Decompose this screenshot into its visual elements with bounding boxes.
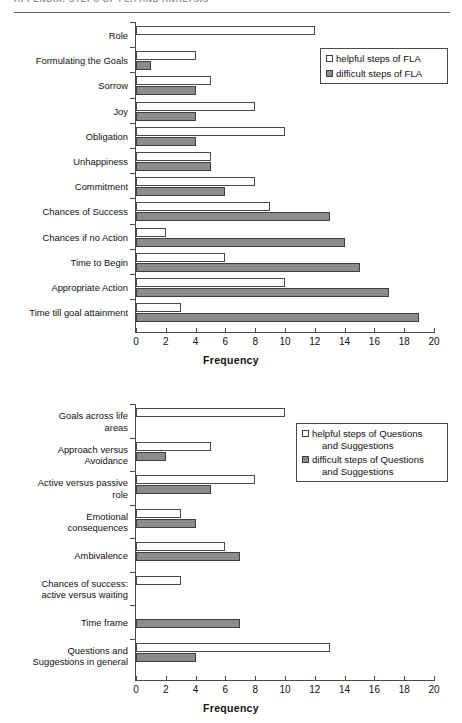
bar-difficult <box>136 653 196 662</box>
value-axis-tick-label: 6 <box>210 684 240 695</box>
bar-difficult <box>136 187 225 196</box>
value-axis-tick-label: 20 <box>419 684 449 695</box>
legend-swatch-helpful-icon <box>326 55 333 62</box>
value-axis-tick-label: 0 <box>121 684 151 695</box>
category-label-line: Ambivalence <box>74 550 128 561</box>
bar-helpful <box>136 253 225 262</box>
value-axis-tick-label: 8 <box>240 684 270 695</box>
category-label-line: Formulating the Goals <box>36 55 128 66</box>
category-label: Chances if no Action <box>0 232 128 243</box>
category-label: Sorrow <box>0 80 128 91</box>
category-label: Questions andSuggestions in general <box>0 645 128 668</box>
category-label-line: Role <box>109 30 128 41</box>
bar-helpful <box>136 102 255 111</box>
value-axis-tick-label: 4 <box>181 336 211 347</box>
value-axis-tick-label: 2 <box>151 684 181 695</box>
bar-helpful <box>136 51 196 60</box>
category-tick <box>130 224 135 225</box>
chart-questions-legend: helpful steps of Questionsand Suggestion… <box>296 423 448 482</box>
value-axis-tick-label: 16 <box>359 684 389 695</box>
bar-helpful <box>136 509 181 518</box>
bar-difficult <box>136 452 166 461</box>
category-tick <box>130 605 135 606</box>
legend-label-line: and Suggestions <box>322 440 422 452</box>
value-axis-tick-label: 16 <box>359 336 389 347</box>
category-tick <box>130 639 135 640</box>
category-label: Emotionalconsequences <box>0 511 128 534</box>
category-tick <box>130 22 135 23</box>
category-tick <box>130 123 135 124</box>
legend-swatch-difficult-icon <box>302 456 309 463</box>
category-tick <box>130 438 135 439</box>
value-axis-tick <box>434 328 435 332</box>
category-label: Chances of Success <box>0 206 128 217</box>
category-label-line: Chances of Success <box>43 206 128 217</box>
category-tick <box>130 249 135 250</box>
legend-swatch-difficult-icon <box>326 70 333 77</box>
legend-item-helpful: helpful steps of Questionsand Suggestion… <box>302 428 441 451</box>
value-axis-tick <box>374 328 375 332</box>
category-label-line: consequences <box>0 522 128 533</box>
category-label-line: Goals across life <box>59 410 128 421</box>
bar-helpful <box>136 542 225 551</box>
category-label-line: Sorrow <box>98 80 128 91</box>
value-axis-tick <box>255 676 256 680</box>
category-label-line: Unhappiness <box>73 156 128 167</box>
legend-label-line: and Suggestions <box>322 466 424 478</box>
category-tick <box>130 572 135 573</box>
category-label: Appropriate Action <box>0 282 128 293</box>
legend-item-difficult: difficult steps of Questionsand Suggesti… <box>302 454 441 477</box>
value-axis-tick-label: 4 <box>181 684 211 695</box>
value-axis-tick-label: 12 <box>300 336 330 347</box>
category-tick <box>130 404 135 405</box>
category-label-line: Chances of success: <box>42 578 129 589</box>
legend-label-line: helpful steps of FLA <box>336 53 421 64</box>
category-label: Commitment <box>0 181 128 192</box>
bar-difficult <box>136 485 211 494</box>
running-head-text: APPENDIX: STEPS OF FLA AND ANALYSIS <box>14 0 209 4</box>
value-axis-tick <box>166 328 167 332</box>
bar-difficult <box>136 112 196 121</box>
category-label-line: active versus waiting <box>0 589 128 600</box>
value-axis-tick <box>285 676 286 680</box>
category-label: Role <box>0 30 128 41</box>
value-axis-tick-label: 14 <box>330 336 360 347</box>
bar-helpful <box>136 303 181 312</box>
page-running-head: APPENDIX: STEPS OF FLA AND ANALYSIS <box>0 0 462 16</box>
bar-helpful <box>136 177 255 186</box>
bar-helpful <box>136 76 211 85</box>
category-label: Active versus passiverole <box>0 477 128 500</box>
bar-difficult <box>136 552 240 561</box>
legend-label: difficult steps of FLA <box>336 68 422 80</box>
bar-helpful <box>136 26 315 35</box>
bar-helpful <box>136 442 211 451</box>
value-axis-tick-label: 0 <box>121 336 151 347</box>
legend-item-difficult: difficult steps of FLA <box>326 68 441 80</box>
value-axis-tick-label: 20 <box>419 336 449 347</box>
category-tick <box>130 299 135 300</box>
bar-difficult <box>136 263 360 272</box>
category-label: Approach versusAvoidance <box>0 444 128 467</box>
bar-helpful <box>136 202 270 211</box>
category-tick <box>130 47 135 48</box>
legend-label: helpful steps of FLA <box>336 53 421 65</box>
legend-label-line: difficult steps of Questions <box>312 454 424 465</box>
category-tick <box>130 98 135 99</box>
legend-label-line: helpful steps of Questions <box>312 428 422 439</box>
value-axis-tick-label: 14 <box>330 684 360 695</box>
category-label: Unhappiness <box>0 156 128 167</box>
category-label: Time frame <box>0 617 128 628</box>
value-axis-tick <box>225 328 226 332</box>
category-label: Time till goal attainment <box>0 307 128 318</box>
category-label-line: Time to Begin <box>71 257 129 268</box>
legend-item-helpful: helpful steps of FLA <box>326 53 441 65</box>
category-label: Obligation <box>0 131 128 142</box>
bar-difficult <box>136 238 345 247</box>
value-axis-tick-label: 18 <box>389 336 419 347</box>
bar-helpful <box>136 127 285 136</box>
bar-helpful <box>136 152 211 161</box>
value-axis-tick <box>404 328 405 332</box>
value-axis <box>135 332 435 333</box>
chart-fla: RoleFormulating the GoalsSorrowJoyObliga… <box>0 18 462 373</box>
category-label: Goals across lifeareas <box>0 410 128 433</box>
